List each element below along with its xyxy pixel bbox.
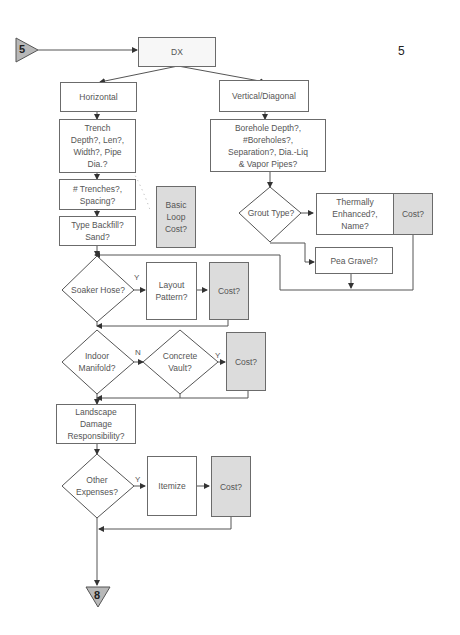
node-trench-dimensions: Trench Depth?, Len?, Width?, Pipe Dia.?: [59, 119, 136, 173]
decision-other-expenses: Other Expenses?: [64, 474, 130, 498]
node-thermally-cost: Cost?: [393, 193, 433, 235]
node-landscape-damage: Landscape Damage Responsibility?: [56, 404, 136, 444]
decision-indoor-manifold: Indoor Manifold?: [64, 350, 130, 374]
node-dx: DX: [138, 37, 216, 67]
node-vault-cost: Cost?: [226, 332, 266, 391]
node-basic-loop-cost: Basic Loop Cost?: [156, 186, 196, 248]
node-horizontal: Horizontal: [60, 82, 137, 112]
start-connector-label: 5: [19, 43, 25, 55]
node-pea-gravel: Pea Gravel?: [315, 247, 393, 274]
node-trenches-spacing: # Trenches?, Spacing?: [59, 179, 136, 210]
decision-soaker-hose: Soaker Hose?: [62, 282, 134, 298]
node-backfill: Type Backfill? Sand?: [59, 216, 136, 246]
end-connector-label: 8: [94, 589, 100, 601]
node-layout-pattern: Layout Pattern?: [146, 262, 197, 320]
edge-label-other-yes: Y: [135, 475, 140, 484]
decision-concrete-vault: Concrete Vault?: [147, 350, 213, 374]
node-itemize: Itemize: [147, 456, 197, 516]
edge-label-soaker-yes: Y: [134, 273, 139, 282]
page-number: 5: [398, 44, 405, 58]
node-soaker-cost: Cost?: [209, 262, 249, 320]
node-thermally-enhanced: Thermally Enhanced?, Name?: [316, 193, 394, 235]
edge-label-vault-yes: Y: [215, 351, 220, 360]
edge-label-manifold-no: N: [135, 348, 141, 357]
decision-grout-type: Grout Type?: [240, 205, 302, 221]
node-vertical-diagonal: Vertical/Diagonal: [219, 80, 309, 112]
node-other-cost: Cost?: [211, 456, 251, 517]
node-borehole: Borehole Depth?, #Boreholes?, Separation…: [210, 119, 326, 172]
